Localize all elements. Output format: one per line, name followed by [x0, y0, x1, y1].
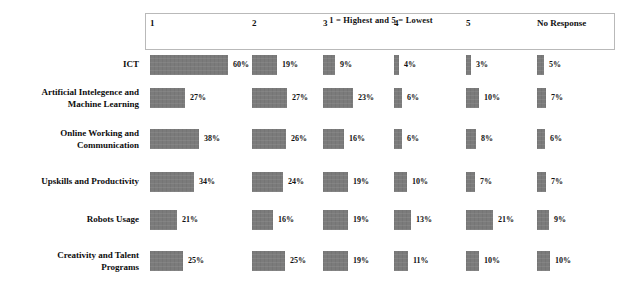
- bar-value-label: 38%: [204, 134, 220, 143]
- bar: [466, 88, 479, 108]
- bar: [252, 251, 285, 271]
- bar-cell: 11%: [394, 251, 442, 271]
- row-label: Online Working andCommunication: [0, 128, 139, 151]
- bar: [323, 55, 335, 75]
- bar: [466, 129, 476, 149]
- bar-cell: 9%: [323, 55, 369, 75]
- bar: [150, 129, 199, 149]
- bar-value-label: 7%: [480, 177, 492, 186]
- bar: [323, 88, 353, 108]
- bar-cell: 10%: [466, 88, 513, 108]
- bar: [394, 88, 402, 108]
- bar-cell: 6%: [394, 88, 436, 108]
- bar-value-label: 25%: [188, 256, 204, 265]
- row-label-line: Programs: [0, 262, 139, 274]
- bar: [394, 129, 402, 149]
- bar: [323, 129, 344, 149]
- bar-cell: 9%: [537, 210, 583, 230]
- grouped-bar-chart: 1 = Highest and 5 = Lowest 12345No Respo…: [0, 0, 639, 292]
- bar-cell: 21%: [150, 210, 211, 230]
- bar: [394, 172, 407, 192]
- bar-value-label: 23%: [358, 93, 374, 102]
- column-header-1: 1: [150, 18, 155, 28]
- bar: [150, 88, 185, 108]
- row-label: Creativity and TalentPrograms: [0, 250, 139, 273]
- bar-cell: 19%: [323, 251, 382, 271]
- bar-cell: 27%: [252, 88, 321, 108]
- bar-value-label: 10%: [484, 93, 500, 102]
- bar-value-label: 13%: [416, 215, 432, 224]
- bar-cell: 25%: [150, 251, 217, 271]
- bar-cell: 19%: [323, 210, 382, 230]
- bar-cell: 13%: [394, 210, 445, 230]
- bar-cell: 19%: [323, 172, 382, 192]
- column-header-4: 4: [394, 18, 399, 28]
- bar-value-label: 6%: [550, 134, 562, 143]
- bar: [394, 210, 411, 230]
- row-label: Artificial Intelegence andMachine Learni…: [0, 87, 139, 110]
- bar-value-label: 5%: [549, 60, 561, 69]
- bar-cell: 34%: [150, 172, 228, 192]
- bar: [252, 210, 273, 230]
- column-header-6: No Response: [537, 18, 586, 28]
- bar-value-label: 24%: [288, 177, 304, 186]
- bar: [150, 55, 228, 75]
- bar-value-label: 27%: [190, 93, 206, 102]
- bar-cell: 25%: [252, 251, 319, 271]
- bar: [537, 172, 546, 192]
- bar: [466, 172, 475, 192]
- bar-cell: 38%: [150, 129, 233, 149]
- bar-value-label: 6%: [407, 134, 419, 143]
- bar: [150, 210, 177, 230]
- bar-cell: 7%: [466, 172, 509, 192]
- bar-cell: 6%: [394, 129, 436, 149]
- bar-cell: 3%: [466, 55, 505, 75]
- bar-value-label: 10%: [555, 256, 571, 265]
- bar-value-label: 25%: [290, 256, 306, 265]
- bar-cell: 7%: [537, 172, 580, 192]
- bar-cell: 10%: [466, 251, 513, 271]
- bar-value-label: 16%: [278, 215, 294, 224]
- bar-value-label: 6%: [407, 93, 419, 102]
- bar: [150, 251, 183, 271]
- bar-value-label: 26%: [291, 134, 307, 143]
- bar-value-label: 21%: [182, 215, 198, 224]
- row-label: Upskills and Productivity: [0, 176, 139, 188]
- bar-cell: 21%: [466, 210, 527, 230]
- bar-cell: 5%: [537, 55, 578, 75]
- bar-value-label: 8%: [481, 134, 493, 143]
- bar: [466, 210, 493, 230]
- bar: [466, 251, 479, 271]
- bar-value-label: 16%: [349, 134, 365, 143]
- bar-cell: 16%: [252, 210, 307, 230]
- bar-cell: 7%: [537, 88, 580, 108]
- bar: [252, 172, 283, 192]
- bar-cell: 60%: [150, 55, 262, 75]
- bar: [394, 55, 399, 75]
- bar-cell: 24%: [252, 172, 317, 192]
- bar-value-label: 9%: [340, 60, 352, 69]
- bar-cell: 10%: [394, 172, 441, 192]
- bar-value-label: 9%: [554, 215, 566, 224]
- bar-cell: 19%: [252, 55, 311, 75]
- bar-value-label: 11%: [413, 256, 429, 265]
- row-label-line: Artificial Intelegence and: [0, 87, 139, 99]
- bar: [323, 210, 348, 230]
- bar-value-label: 19%: [353, 256, 369, 265]
- row-label-line: Online Working and: [0, 128, 139, 140]
- bar-cell: 26%: [252, 129, 320, 149]
- row-label-line: ICT: [0, 59, 139, 71]
- bar-cell: 4%: [394, 55, 433, 75]
- bar-value-label: 19%: [353, 177, 369, 186]
- column-header-2: 2: [252, 18, 257, 28]
- bar: [252, 88, 287, 108]
- bar: [537, 251, 550, 271]
- row-label-line: Upskills and Productivity: [0, 176, 139, 188]
- bar: [537, 88, 546, 108]
- row-label-line: Creativity and Talent: [0, 250, 139, 262]
- bar: [252, 55, 277, 75]
- column-header-5: 5: [466, 18, 471, 28]
- bar: [537, 129, 545, 149]
- bar-value-label: 19%: [282, 60, 298, 69]
- bar-value-label: 21%: [498, 215, 514, 224]
